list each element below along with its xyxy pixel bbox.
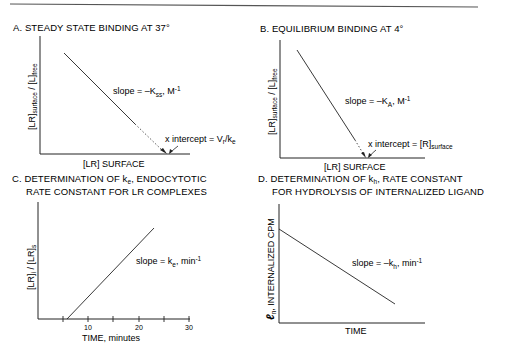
panel-c-data-line — [67, 228, 154, 319]
panel-b-slope-annotation: slope = –KA, M-1 — [345, 95, 411, 108]
panel-b-y-label: [LR]surface / [L]free — [267, 68, 278, 135]
panel-a-title: A. STEADY STATE BINDING AT 37° — [13, 22, 170, 33]
panel-a-slope-annotation: slope = –Kss, M-1 — [113, 85, 181, 98]
panel-a-y-label: [LR]surface / [L]free — [27, 63, 38, 130]
panel-c-title-line1: C. DETERMINATION OF ke, ENDOCYTOTIC — [12, 173, 207, 185]
panel-a-pointer-arrowhead-icon — [169, 149, 173, 154]
panel-b-data-line — [297, 50, 355, 140]
panel-b-x-label: [LR] SURFACE — [324, 162, 386, 172]
panel-d-slope-annotation: slope = –kh, min-1 — [352, 257, 423, 270]
panel-a-x-label: [LR] SURFACE — [83, 159, 145, 169]
panel-c: C. DETERMINATION OF ke, ENDOCYTOTIC RATE… — [12, 173, 207, 343]
panel-c-x-label: TIME, minutes — [82, 333, 141, 343]
panel-c-title-line2: RATE CONSTANT FOR LR COMPLEXES — [26, 186, 207, 197]
figure-canvas: A. STEADY STATE BINDING AT 37° [LR]surfa… — [0, 0, 513, 363]
panel-c-tick-label-20: 20 — [135, 324, 143, 331]
panel-b: B. EQUILIBRIUM BINDING AT 4° [LR]surface… — [260, 23, 453, 172]
panel-c-slope-annotation: slope = ke, min-1 — [136, 255, 202, 268]
panel-c-tick-label-10: 10 — [84, 324, 92, 331]
panel-c-y-label: [LR]i / [LR]s — [26, 244, 37, 290]
panel-d: D. DETERMINATION OF kh, RATE CONSTANT FO… — [258, 173, 484, 336]
panel-d-x-label: TIME — [345, 326, 367, 336]
panel-a-extrapolation-line — [135, 124, 164, 152]
panel-d-title-line2: FOR HYDROLYSIS OF INTERNALIZED LIGAND — [272, 186, 484, 197]
panel-a: A. STEADY STATE BINDING AT 37° [LR]surfa… — [13, 22, 236, 169]
panel-d-title-line1: D. DETERMINATION OF kh, RATE CONSTANT — [258, 173, 463, 185]
panel-a-intercept-annotation: x intercept = Vr/ke — [165, 134, 236, 145]
panel-b-dotted-arrowhead-icon — [361, 152, 366, 158]
panel-b-intercept-annotation: x intercept = [R]surface — [368, 139, 453, 150]
panel-d-y-label: ℓn, INTERNALIZED CPM — [264, 218, 277, 320]
panel-b-title: B. EQUILIBRIUM BINDING AT 4° — [260, 23, 404, 34]
panel-c-tick-label-30: 30 — [185, 324, 193, 331]
top-rule — [10, 4, 478, 7]
